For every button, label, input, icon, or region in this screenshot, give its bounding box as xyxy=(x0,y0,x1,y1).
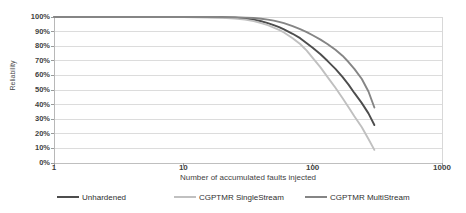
legend-label: Unhardened xyxy=(82,193,126,202)
x-axis-tick-label: 100 xyxy=(293,163,333,172)
y-axis-tick-label: 10% xyxy=(20,144,50,152)
y-axis-tick-label: 70% xyxy=(20,57,50,65)
x-axis-tick-label: 1000 xyxy=(422,163,462,172)
series-line-cgptmr-singlestream xyxy=(54,17,374,150)
reliability-line-chart: Reliability 0%10%20%30%40%50%60%70%80%90… xyxy=(0,0,466,213)
x-axis-tick-label: 1 xyxy=(34,163,74,172)
y-axis-tick-label: 30% xyxy=(20,115,50,123)
legend-item[interactable]: Unhardened xyxy=(57,190,126,204)
legend-swatch xyxy=(305,196,327,199)
x-axis-tick-label: 10 xyxy=(163,163,203,172)
y-axis-tick-label: 50% xyxy=(20,86,50,94)
legend-item[interactable]: CGPTMR SingleStream xyxy=(174,190,284,204)
series-line-cgptmr-multistream xyxy=(54,17,374,108)
legend-label: CGPTMR SingleStream xyxy=(199,193,284,202)
legend-item[interactable]: CGPTMR MultiStream xyxy=(305,190,410,204)
y-axis-tick-label: 90% xyxy=(20,28,50,36)
y-axis-tick-labels: 0%10%20%30%40%50%60%70%80%90%100% xyxy=(14,0,50,170)
legend-label: CGPTMR MultiStream xyxy=(330,193,410,202)
plot-area xyxy=(0,0,466,172)
x-axis-title: Number of accumulated faults injected xyxy=(54,173,442,182)
legend-swatch xyxy=(174,196,196,199)
legend-swatch xyxy=(57,196,79,199)
series-line-unhardened xyxy=(54,17,374,125)
y-axis-tick-label: 60% xyxy=(20,71,50,79)
chart-legend: UnhardenedCGPTMR SingleStreamCGPTMR Mult… xyxy=(0,190,466,206)
y-axis-tick-label: 20% xyxy=(20,130,50,138)
y-axis-tick-label: 40% xyxy=(20,101,50,109)
y-axis-tick-label: 100% xyxy=(20,13,50,21)
y-axis-tick-label: 80% xyxy=(20,42,50,50)
